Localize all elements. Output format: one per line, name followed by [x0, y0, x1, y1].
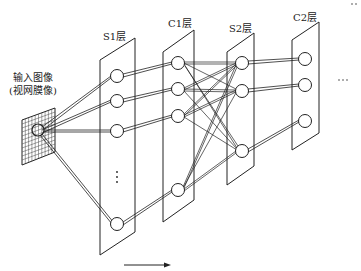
connections-s2-c2: [248, 58, 299, 152]
s1-nodes: [111, 70, 124, 231]
c1-layer-label: C1层: [168, 15, 192, 30]
s2-layer-panel: [227, 33, 254, 185]
continuation-ellipsis-mid: [338, 79, 348, 81]
s1-vertical-ellipsis: [116, 171, 118, 183]
s2-nodes: [236, 57, 249, 158]
continuation-ellipsis-top: [351, 3, 357, 5]
network-diagram: [0, 0, 361, 271]
c1-nodes: [172, 57, 185, 197]
input-label-line2: (视网膜像): [9, 82, 57, 97]
s1-layer-label: S1层: [103, 28, 126, 43]
flow-arrow-icon: [124, 263, 171, 268]
c2-nodes: [299, 53, 312, 128]
s2-layer-label: S2层: [229, 20, 252, 35]
connections-input-s1: [40, 76, 114, 224]
connections-s1-c1: [123, 62, 172, 225]
connections-c1-s2: [183, 62, 238, 191]
input-retina-grid: [22, 108, 55, 165]
c2-layer-label: C2层: [293, 9, 317, 24]
